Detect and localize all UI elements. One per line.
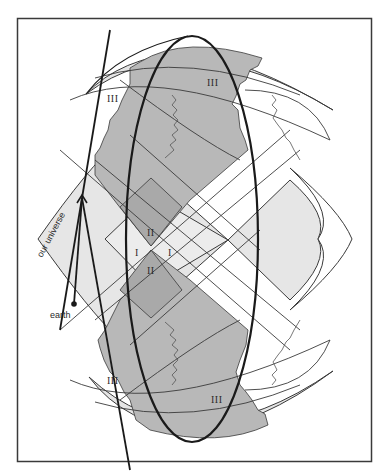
region-II-top-label: II — [147, 227, 155, 238]
region-III-bottom-label: III — [211, 394, 223, 405]
region-III-bottom-left-label: III — [107, 375, 119, 386]
region-II-bottom-label: II — [147, 265, 155, 276]
region-I-right-label: I — [168, 247, 172, 258]
penrose-diagram: our universe earth II I I II III III III… — [0, 0, 389, 476]
region-I-left-label: I — [135, 247, 139, 258]
region-III-top-label: III — [207, 77, 219, 88]
earth-label: earth — [50, 310, 71, 320]
region-III-top-left-label: III — [107, 93, 119, 104]
earth-dot — [71, 301, 77, 307]
